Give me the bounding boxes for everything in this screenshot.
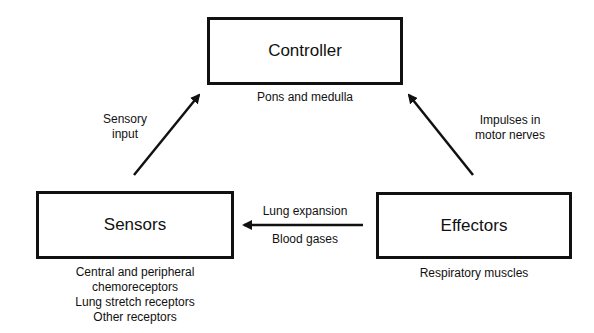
controller-subtitle: Pons and medulla <box>207 90 403 105</box>
sensory-input-label: Sensory input <box>85 112 165 142</box>
effectors-subtitle: Respiratory muscles <box>376 266 572 281</box>
lung-expansion-label: Lung expansion <box>240 204 370 219</box>
sensors-detail-line: chemoreceptors <box>36 280 234 295</box>
sensors-detail-line: Other receptors <box>36 310 234 325</box>
blood-gases-label: Blood gases <box>240 232 370 247</box>
sensors-title: Sensors <box>104 215 166 235</box>
controller-box: Controller <box>207 17 403 85</box>
motor-impulses-line: Impulses in <box>460 113 560 128</box>
effectors-title: Effectors <box>441 216 508 236</box>
motor-impulses-label: Impulses in motor nerves <box>460 113 560 143</box>
sensors-details: Central and peripheral chemoreceptors Lu… <box>36 265 234 325</box>
effectors-box: Effectors <box>376 192 572 259</box>
controller-title: Controller <box>268 41 342 61</box>
sensors-detail-line: Lung stretch receptors <box>36 295 234 310</box>
motor-impulses-line: motor nerves <box>460 128 560 143</box>
sensory-input-line: input <box>85 127 165 142</box>
sensors-detail-line: Central and peripheral <box>36 265 234 280</box>
sensors-box: Sensors <box>36 191 234 259</box>
sensory-input-line: Sensory <box>85 112 165 127</box>
